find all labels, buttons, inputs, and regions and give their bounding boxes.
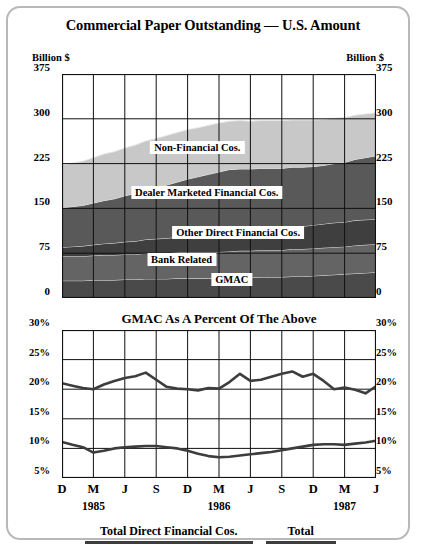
x-year-label: 1985: [82, 500, 105, 512]
chart-frame: Commercial Paper Outstanding — U.S. Amou…: [6, 6, 410, 540]
bottom-chart-ytick-l: 10%: [10, 436, 50, 447]
x-tick-label: D: [57, 482, 66, 497]
subtitle: GMAC As A Percent Of The Above: [62, 311, 376, 327]
x-tick-label: S: [278, 482, 285, 497]
bottom-chart-ytick-l: 30%: [10, 318, 50, 329]
x-tick-label: S: [153, 482, 160, 497]
top-chart-ytick-l: 75: [14, 241, 50, 252]
legend-label: Total: [266, 524, 336, 539]
x-axis-year-labels: 198519861987: [62, 500, 376, 516]
band-label: Bank Related: [147, 253, 216, 266]
top-chart-ytick-r: 375: [376, 62, 412, 73]
band-label: Other Direct Financial Cos.: [172, 226, 304, 239]
bottom-chart-ytick-r: 20%: [376, 377, 416, 388]
bottom-chart-ytick-l: 20%: [10, 377, 50, 388]
legend-swatch: [266, 541, 336, 544]
x-year-label: 1986: [208, 500, 231, 512]
x-tick-label: M: [87, 482, 99, 497]
x-tick-label: D: [309, 482, 318, 497]
bottom-chart-ytick-l: 15%: [10, 407, 50, 418]
legend-item[interactable]: Total: [266, 524, 336, 544]
top-chart-ytick-l: 0: [14, 286, 50, 297]
top-chart-ytick-r: 0: [376, 286, 412, 297]
x-year-label: 1987: [333, 500, 356, 512]
top-chart-ytick-r: 75: [376, 241, 412, 252]
gmac-percent-line-chart: [62, 330, 376, 478]
bottom-chart-ytick-r: 30%: [376, 318, 416, 329]
band-label: Non-Financial Cos.: [150, 141, 244, 154]
band-label: GMAC: [211, 273, 252, 286]
top-chart-ytick-r: 225: [376, 152, 412, 163]
bottom-chart-ytick-l: 5%: [10, 466, 50, 477]
x-tick-label: J: [373, 482, 379, 497]
band-label: Dealer Marketed Financial Cos.: [131, 186, 282, 199]
x-tick-label: J: [247, 482, 253, 497]
top-chart-ytick-r: 300: [376, 107, 412, 118]
bottom-chart-ytick-r: 15%: [376, 407, 416, 418]
bottom-chart-ytick-l: 25%: [10, 348, 50, 359]
x-axis-tick-labels: DMJSDMJSDMJ: [62, 482, 376, 498]
top-chart-ytick-l: 300: [14, 107, 50, 118]
legend-item[interactable]: Total Direct Financial Cos.: [85, 524, 253, 544]
legend-label: Total Direct Financial Cos.: [85, 524, 253, 539]
page-title: Commercial Paper Outstanding — U.S. Amou…: [48, 18, 378, 34]
chart-legend: Total Direct Financial Cos.Total: [62, 524, 376, 548]
x-tick-label: J: [122, 482, 128, 497]
bottom-chart-ytick-r: 25%: [376, 348, 416, 359]
x-tick-label: M: [213, 482, 225, 497]
bottom-chart-ytick-r: 5%: [376, 466, 416, 477]
top-chart-ytick-l: 150: [14, 196, 50, 207]
x-tick-label: D: [183, 482, 192, 497]
top-chart-ytick-l: 225: [14, 152, 50, 163]
legend-swatch: [85, 541, 253, 544]
top-chart-ytick-l: 375: [14, 62, 50, 73]
bottom-chart-ytick-r: 10%: [376, 436, 416, 447]
x-tick-label: M: [339, 482, 351, 497]
top-chart-ytick-r: 150: [376, 196, 412, 207]
